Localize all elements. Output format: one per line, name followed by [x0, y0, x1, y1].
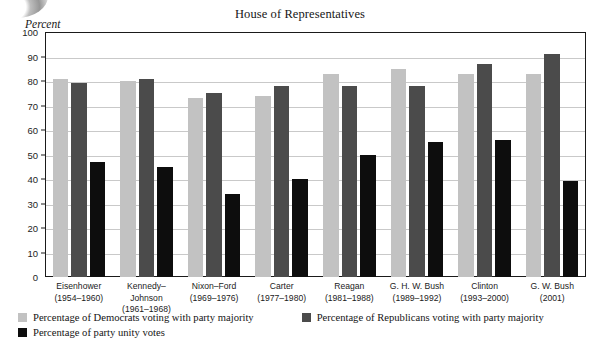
legend-item-republicans[interactable]: Percentage of Republicans voting with pa…	[302, 312, 544, 323]
gridline-90	[46, 58, 585, 59]
y-tick-label-30: 30	[27, 198, 38, 209]
legend-label-democrats: Percentage of Democrats voting with part…	[33, 312, 254, 323]
gridline-60	[46, 131, 585, 132]
legend-row-2: Percentage of party unity votes	[18, 327, 588, 342]
x-axis-group-label: G. W. Bush(2001)	[518, 281, 586, 304]
legend-row-1: Percentage of Democrats voting with part…	[18, 312, 588, 327]
y-axis: 0102030405060708090100	[0, 32, 45, 277]
gridline-70	[46, 107, 585, 108]
y-tick-label-80: 80	[27, 76, 38, 87]
y-tick-label-10: 10	[27, 247, 38, 258]
legend-swatch-democrats-icon	[18, 313, 27, 322]
chart-legend: Percentage of Democrats voting with part…	[18, 312, 588, 342]
plot-area	[45, 32, 586, 277]
x-axis-group-name: G. W. Bush	[530, 281, 573, 291]
y-tick-label-0: 0	[33, 272, 38, 283]
gridline-80	[46, 82, 585, 83]
x-axis-group-years: (1977–1980)	[248, 293, 316, 305]
legend-item-democrats[interactable]: Percentage of Democrats voting with part…	[18, 312, 254, 323]
x-axis-group-label: Kennedy–Johnson(1961–1968)	[113, 281, 181, 316]
x-axis-group-years: (1969–1976)	[180, 293, 248, 305]
chart-title: House of Representatives	[0, 7, 600, 22]
x-axis-group-label: Clinton(1993–2000)	[451, 281, 519, 304]
x-axis-group-years: (1989–1992)	[383, 293, 451, 305]
y-tick-label-50: 50	[27, 149, 38, 160]
y-tick-label-90: 90	[27, 51, 38, 62]
x-axis-group-name: Reagan	[334, 281, 364, 291]
gridline-40	[46, 180, 585, 181]
x-axis-group-label: Carter(1977–1980)	[248, 281, 316, 304]
x-axis-group-name: Carter	[270, 281, 294, 291]
x-axis-group-name: Clinton	[471, 281, 498, 291]
x-axis-group-years: (1954–1960)	[45, 293, 113, 305]
x-axis-group-name: Eisenhower	[56, 281, 101, 291]
legend-swatch-republicans-icon	[302, 313, 311, 322]
x-axis-group-label: Reagan(1981–1988)	[316, 281, 384, 304]
y-tick-label-70: 70	[27, 100, 38, 111]
x-axis-group-name: G. H. W. Bush	[390, 281, 444, 291]
gridline-20	[46, 229, 585, 230]
gridline-50	[46, 156, 585, 157]
x-axis-group-name: Kennedy–Johnson	[127, 281, 166, 303]
x-axis-group-label: G. H. W. Bush(1989–1992)	[383, 281, 451, 304]
x-axis-group-name: Nixon–Ford	[192, 281, 236, 291]
legend-item-party-unity[interactable]: Percentage of party unity votes	[18, 327, 165, 338]
legend-swatch-party-unity-icon	[18, 328, 27, 337]
y-tick-label-40: 40	[27, 174, 38, 185]
legend-label-republicans: Percentage of Republicans voting with pa…	[317, 312, 544, 323]
gridline-30	[46, 205, 585, 206]
x-axis-group-label: Nixon–Ford(1969–1976)	[180, 281, 248, 304]
y-tick-label-100: 100	[22, 27, 38, 38]
x-axis-group-years: (2001)	[518, 293, 586, 305]
x-axis-group-years: (1981–1988)	[316, 293, 384, 305]
legend-label-party-unity: Percentage of party unity votes	[33, 327, 165, 338]
y-tick-label-20: 20	[27, 223, 38, 234]
y-tick-label-60: 60	[27, 125, 38, 136]
x-axis-group-years: (1993–2000)	[451, 293, 519, 305]
x-axis-labels: Eisenhower(1954–1960)Kennedy–Johnson(196…	[45, 281, 586, 309]
x-axis-group-label: Eisenhower(1954–1960)	[45, 281, 113, 304]
gridline-10	[46, 254, 585, 255]
